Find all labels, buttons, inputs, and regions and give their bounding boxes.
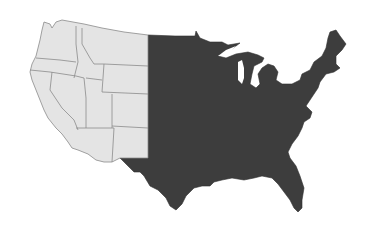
us-map (0, 0, 368, 230)
region-east (120, 30, 346, 212)
region-west (30, 20, 148, 162)
